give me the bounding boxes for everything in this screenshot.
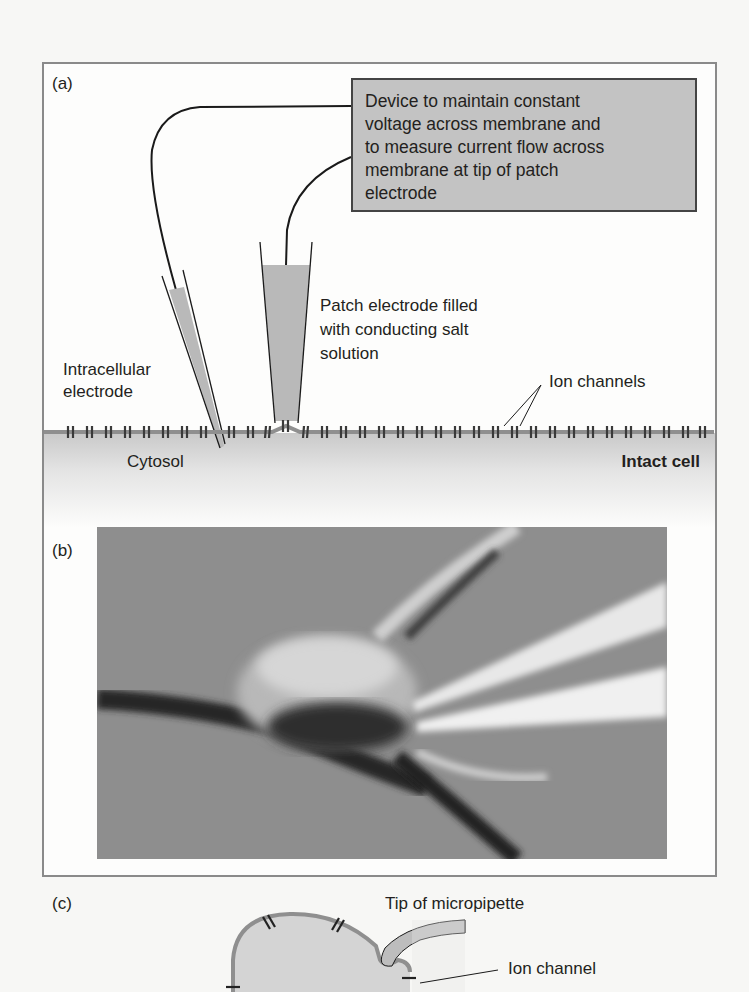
device-box-line: membrane at tip of patch [365, 159, 683, 182]
panel-b-label: (b) [52, 541, 73, 561]
cytosol-label: Cytosol [127, 451, 184, 473]
intracellular-electrode-label: Intracellular electrode [63, 359, 151, 403]
membrane [44, 420, 714, 438]
device-box-line: voltage across membrane and [365, 113, 683, 136]
patch-electrode-label: Patch electrode filled with conducting s… [320, 294, 478, 366]
device-box-line: Device to maintain constant [365, 90, 683, 113]
neuron-micrograph [97, 527, 667, 859]
tip-of-micropipette-label: Tip of micropipette [385, 893, 524, 915]
panel-c-label: (c) [52, 894, 72, 914]
intracellular-electrode [162, 270, 225, 448]
patch-electrode-line: solution [320, 342, 478, 366]
intracellular-line: Intracellular [63, 359, 151, 381]
wire-intracellular [152, 106, 352, 290]
ion-channel-marks [68, 420, 705, 438]
patch-electrode-line: with conducting salt [320, 318, 478, 342]
device-box-line: to measure current flow across [365, 136, 683, 159]
device-box: Device to maintain constant voltage acro… [351, 78, 697, 212]
panel-a-label: (a) [52, 74, 73, 94]
intact-cell-label: Intact cell [622, 451, 700, 473]
ion-channels-leader-1 [504, 385, 541, 426]
device-box-line: electrode [365, 182, 683, 205]
ion-channels-label: Ion channels [549, 371, 645, 393]
intracellular-line: electrode [63, 381, 151, 403]
patch-electrode-line: Patch electrode filled [320, 294, 478, 318]
wire-patch [286, 157, 351, 266]
ion-channel-label: Ion channel [508, 958, 596, 980]
patch-electrode [260, 242, 312, 423]
